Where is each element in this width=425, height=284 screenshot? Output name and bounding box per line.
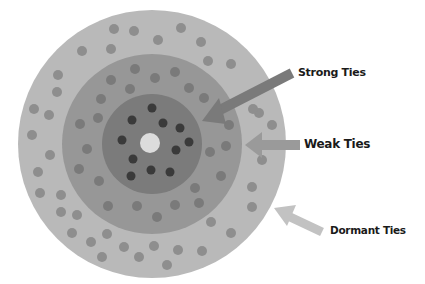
dormant-ties-label: Dormant Ties bbox=[330, 224, 406, 236]
dormant-ties-arrow-icon bbox=[274, 205, 322, 232]
strong-ties-label: Strong Ties bbox=[298, 66, 366, 79]
weak-ties-label: Weak Ties bbox=[304, 137, 370, 151]
center-node bbox=[140, 133, 160, 153]
